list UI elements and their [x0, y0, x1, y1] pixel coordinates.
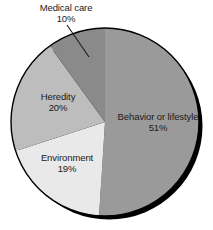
slice-label-medical-care-value: 10%: [18, 14, 114, 25]
slice-label-medical-care: Medical care 10%: [18, 3, 114, 24]
pie-chart: Medical care 10% Heredity 20% Environmen…: [0, 0, 213, 230]
slice-label-behavior-or-lifestyle: Behavior or lifestyle 51%: [112, 112, 204, 133]
slice-label-heredity-value: 20%: [25, 103, 91, 114]
slice-label-environment-value: 19%: [27, 164, 107, 175]
slice-label-behavior-or-lifestyle-value: 51%: [112, 123, 204, 134]
slice-label-environment: Environment 19%: [27, 153, 107, 174]
slice-label-heredity: Heredity 20%: [25, 92, 91, 113]
